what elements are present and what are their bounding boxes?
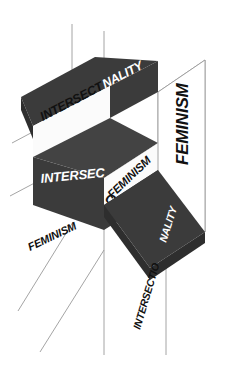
right-panel-label: FEMINISM: [173, 82, 192, 165]
diagram-canvas: INTERSECTIO NALITY INTERSECT FEMINISM: [0, 0, 232, 367]
axonometric-diagram: INTERSECTIO NALITY INTERSECT FEMINISM: [0, 0, 232, 367]
